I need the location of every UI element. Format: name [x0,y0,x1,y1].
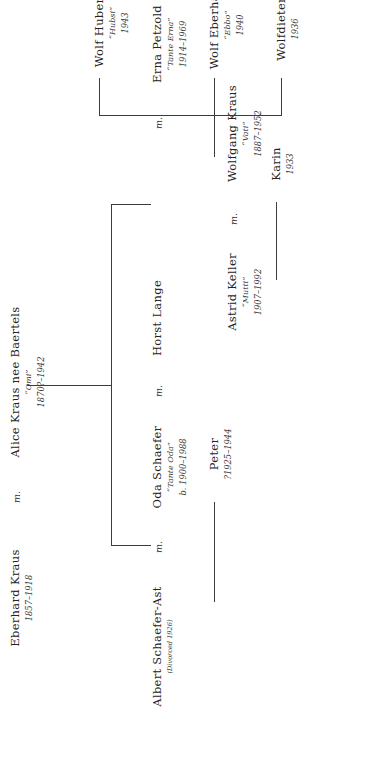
person-name: Horst Lange [150,263,165,373]
person-alice-kraus: Alice Kraus nee Baertels “Omi” 1870?–194… [8,287,47,477]
person-albert-schaefer-ast: Albert Schaefer-Ast (Divorced 1926) [150,564,175,729]
person-dates: 1933 [285,129,296,199]
person-dates: 1914–1969 [178,0,189,103]
person-nickname: “Tante Erna” [166,0,177,103]
connector-g2-branch-wolfgang [111,204,151,205]
connector-g1-descent [27,385,112,386]
person-wolfdieter: Wolfdieter 1936 [274,0,301,75]
person-name: Karin [269,129,284,199]
person-nickname: “Vati” [241,66,252,201]
person-name: Astrid Keller [225,232,240,352]
connector-karin [276,202,277,280]
genealogy-chart-viewport: Eberhard Kraus 1857–1918 m. Alice Kraus … [0,0,371,777]
person-name: Eberhard Kraus [8,523,23,673]
marriage-mark-g1: m. [11,491,22,503]
marriage-mark-wolfgang-erna: m. [153,117,164,129]
person-nickname: “Tante Oda” [166,407,177,527]
marriage-mark-albert-oda: m. [153,541,164,553]
person-dates: 1857–1918 [24,523,35,673]
person-horst-lange: Horst Lange [150,263,165,373]
connector-g2-sibling-spine [111,204,112,546]
person-wolfgang-kraus: Wolfgang Kraus “Vati” 1887–1952 [225,66,264,201]
person-nickname: “Omi” [24,287,35,477]
person-nickname: “Hubsi” [108,0,119,75]
marriage-mark-oda-horst: m. [153,385,164,397]
person-name: Wolf Hubertus [92,0,107,75]
connector-wolfdieter [281,78,282,116]
person-dates: ?1925–1944 [223,409,234,499]
person-dates: 1887–1952 [253,66,264,201]
person-name: Wolfdieter [274,0,289,75]
connector-erna-children-stem [214,115,215,157]
genealogy-chart-canvas: Eberhard Kraus 1857–1918 m. Alice Kraus … [0,0,371,777]
connector-peter [214,502,215,602]
person-name: Wolfgang Kraus [225,66,240,201]
person-karin: Karin 1933 [269,129,296,199]
person-name: Erna Petzold [150,0,165,103]
person-name: Oda Schaefer [150,407,165,527]
person-oda-schaefer: Oda Schaefer “Tante Oda” b. 1900–1988 [150,407,189,527]
person-name: Wolf Eberhard [207,0,222,75]
connector-wolf-eberhard [214,78,215,116]
person-name: Albert Schaefer-Ast [150,564,165,729]
person-astrid-keller: Astrid Keller “Mutti” 1907–1992 [225,232,264,352]
person-dates: 1936 [290,0,301,75]
person-dates: 1940 [235,0,246,75]
person-peter: Peter ?1925–1944 [207,409,234,499]
connector-wolf-hubertus [99,78,100,116]
connector-g2-branch-oda [111,545,151,546]
person-wolf-hubertus: Wolf Hubertus “Hubsi” 1943 [92,0,131,75]
person-wolf-eberhard: Wolf Eberhard “Ebbo” 1940 [207,0,246,75]
person-dates: 1943 [120,0,131,75]
person-dates: 1870?–1942 [36,287,47,477]
person-dates: b. 1900–1988 [178,407,189,527]
person-nickname: “Ebbo” [223,0,234,75]
person-erna-petzold: Erna Petzold “Tante Erna” 1914–1969 [150,0,189,103]
connector-erna-children-spine [99,115,282,116]
person-eberhard-kraus: Eberhard Kraus 1857–1918 [8,523,35,673]
marriage-mark-astrid-wolfgang: m. [228,213,239,225]
person-nickname: “Mutti” [241,232,252,352]
person-dates: 1907–1992 [253,232,264,352]
person-name: Alice Kraus nee Baertels [8,287,23,477]
person-name: Peter [207,409,222,499]
person-note: (Divorced 1926) [166,564,175,729]
